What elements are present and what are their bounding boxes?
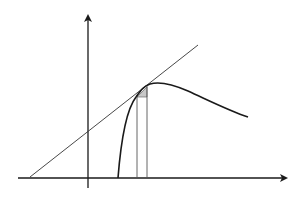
diagram-canvas: [0, 0, 303, 197]
tangent-line: [30, 45, 198, 177]
